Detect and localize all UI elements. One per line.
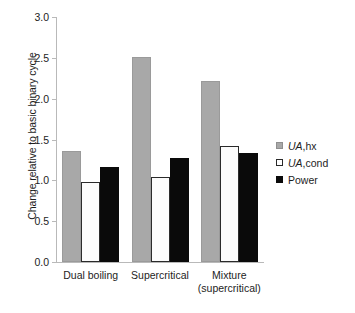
x-category-label-line: Mixture xyxy=(185,269,274,282)
y-tick-label: 2.0 xyxy=(34,93,49,105)
y-tick-label: 1.5 xyxy=(34,134,49,146)
legend-item[interactable]: Power xyxy=(276,171,354,188)
y-tick-label: 0.0 xyxy=(34,256,49,268)
legend-label: Power xyxy=(288,174,318,186)
y-tick-mark xyxy=(52,58,56,59)
y-tick-mark xyxy=(52,99,56,100)
x-axis-line xyxy=(56,262,264,263)
x-category-label: Mixture(supercritical) xyxy=(185,269,274,294)
bar xyxy=(100,167,119,262)
legend-label: UA,cond xyxy=(288,157,328,169)
bar xyxy=(201,81,220,262)
x-category-label-line: (supercritical) xyxy=(185,282,274,295)
y-tick-mark xyxy=(52,221,56,222)
y-tick-mark xyxy=(52,262,56,263)
y-tick-label: 3.0 xyxy=(34,11,49,23)
y-tick-label: 2.5 xyxy=(34,52,49,64)
legend-item[interactable]: UA,cond xyxy=(276,154,354,171)
bar-chart: Change relative to basic binary cycle 3.… xyxy=(0,0,355,313)
y-tick-mark xyxy=(52,140,56,141)
plot-area: 3.02.52.01.51.00.50.0 Dual boilingSuperc… xyxy=(56,17,264,262)
legend-item[interactable]: UA,hx xyxy=(276,137,354,154)
bar-group xyxy=(62,17,119,262)
legend-swatch-icon xyxy=(276,142,283,149)
y-axis-line xyxy=(56,17,57,263)
bar xyxy=(239,153,258,262)
bar-group xyxy=(132,17,189,262)
bar xyxy=(220,146,239,262)
bar xyxy=(132,57,151,262)
bar-group xyxy=(201,17,258,262)
y-tick-mark xyxy=(52,17,56,18)
bar xyxy=(170,158,189,262)
bar xyxy=(62,151,81,262)
bar xyxy=(151,177,170,262)
y-tick-mark xyxy=(52,180,56,181)
legend-swatch-icon xyxy=(276,159,283,166)
legend: UA,hxUA,condPower xyxy=(276,137,354,188)
legend-swatch-icon xyxy=(276,176,283,183)
y-tick-label: 1.0 xyxy=(34,174,49,186)
legend-label: UA,hx xyxy=(288,140,317,152)
bar xyxy=(81,182,100,262)
y-tick-label: 0.5 xyxy=(34,215,49,227)
